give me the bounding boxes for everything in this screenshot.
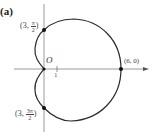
origin-point (43, 68, 46, 71)
fraction-numerator: 3π (26, 108, 34, 115)
label-prefix: (3, (15, 109, 26, 118)
label-prefix: (3, (20, 21, 31, 30)
label-suffix: ) (34, 109, 37, 118)
label-suffix: ) (36, 21, 39, 30)
label-3-pi-over-2: (3, π2) (20, 20, 38, 33)
x-axis-arrow-icon (143, 67, 149, 71)
label-3-3pi-over-2: (3, 3π2) (15, 108, 36, 121)
origin-label: O (46, 55, 53, 65)
point-3-3pi-over-2 (42, 106, 46, 110)
point-3-pi-over-2 (42, 28, 46, 32)
fraction: 3π2 (26, 108, 34, 121)
point-6-0 (119, 67, 123, 71)
tick-label-1: 1 (54, 71, 58, 79)
label-6-0: (6, 0) (124, 57, 139, 65)
cardioid-curve (35, 19, 121, 121)
fraction-denominator: 2 (28, 115, 31, 121)
fraction-denominator: 2 (32, 27, 35, 33)
